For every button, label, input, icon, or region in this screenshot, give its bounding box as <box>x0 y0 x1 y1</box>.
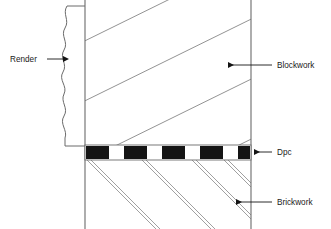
label-dpc: Dpc <box>277 148 292 157</box>
brickwork-hatch-line <box>190 158 280 229</box>
brickwork-hatch-line <box>144 158 234 229</box>
brickwork-hatch-line <box>85 158 175 229</box>
render-wavy-line <box>62 6 85 146</box>
wall-section-drawing: Render Blockwork Dpc Brickwork <box>0 0 331 229</box>
dpc-band-group <box>85 145 251 160</box>
dpc-segment-dark <box>162 146 185 159</box>
brickwork-hatch-line <box>89 158 179 229</box>
blockwork-hatch-line <box>50 0 290 58</box>
blockwork-hatch-line <box>110 180 290 229</box>
dpc-segment-dark <box>200 146 223 159</box>
brickwork-hatch-line <box>226 158 316 229</box>
label-brickwork: Brickwork <box>277 198 313 207</box>
brickwork-hatch-line <box>222 158 312 229</box>
dpc-segment-dark <box>238 146 250 159</box>
diagram-canvas: Render Blockwork Dpc Brickwork <box>0 0 331 229</box>
brickwork-hatch-line <box>140 158 230 229</box>
blockwork-hatch-line <box>50 120 290 229</box>
dpc-segment-dark <box>86 146 109 159</box>
label-blockwork: Blockwork <box>277 61 315 70</box>
label-render: Render <box>10 55 37 64</box>
brickwork-hatch-line <box>194 158 284 229</box>
blockwork-hatch-line <box>50 0 290 118</box>
brickwork-hatch-group <box>85 158 316 229</box>
blockwork-hatch-group <box>50 0 290 229</box>
dpc-segment-dark <box>124 146 147 159</box>
